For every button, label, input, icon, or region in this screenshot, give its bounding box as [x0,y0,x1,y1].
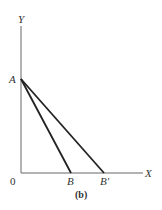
diagram: Y X A 0 B B' (b) [0,0,162,210]
point-b-prime-label: B' [100,175,110,187]
y-axis-label: Y [18,13,26,25]
point-b-label: B [67,175,74,187]
point-a-label: A [8,73,16,85]
diagram-canvas: Y X A 0 B B' (b) [0,0,162,210]
x-axis-label: X [144,167,153,179]
caption: (b) [75,189,87,201]
origin-label: 0 [10,175,16,187]
